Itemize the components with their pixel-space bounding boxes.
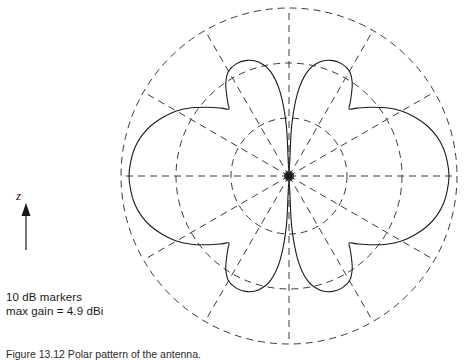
z-axis-arrowhead xyxy=(22,203,31,216)
grid-spoke-210deg xyxy=(144,176,289,260)
grid-spoke-30deg xyxy=(289,92,434,176)
origin-marker xyxy=(284,171,294,181)
z-axis-arrow xyxy=(22,203,31,250)
grid-spoke-120deg xyxy=(205,31,289,176)
annotation-block: 10 dB markers max gain = 4.9 dBi xyxy=(6,290,103,318)
figure-caption: Figure 13.12 Polar pattern of the antenn… xyxy=(6,348,201,360)
z-axis-label: z xyxy=(16,188,21,204)
grid-spoke-240deg xyxy=(205,176,289,321)
grid-spoke-150deg xyxy=(144,92,289,176)
grid-spoke-330deg xyxy=(289,176,434,260)
grid-spoke-60deg xyxy=(289,31,373,176)
annotation-max-gain: max gain = 4.9 dBi xyxy=(6,304,103,318)
origin-dot xyxy=(287,174,291,178)
grid-spoke-300deg xyxy=(289,176,373,321)
annotation-markers: 10 dB markers xyxy=(6,290,103,304)
